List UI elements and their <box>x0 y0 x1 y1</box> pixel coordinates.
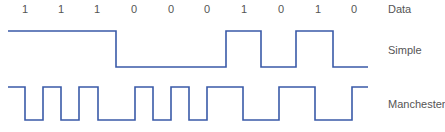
manchester-waveform <box>8 87 368 120</box>
simple-waveform <box>8 31 368 67</box>
encoding-diagram: 1 1 1 0 0 0 1 0 1 0 Data Simple Manchest… <box>0 0 445 132</box>
waveforms <box>0 0 445 132</box>
